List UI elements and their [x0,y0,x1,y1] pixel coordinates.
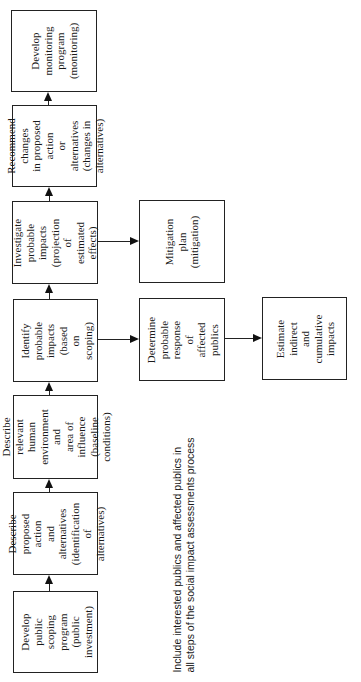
step-label: Develop public scoping program (public i… [18,606,93,658]
note-line-1: Include interested publics and affected … [171,437,184,672]
branch-label: Mitigation plan (mitigation) [163,215,201,268]
step-label: Recommend changes in proposed action or … [5,118,105,174]
branch-label: Determine probable response of affected … [145,316,220,362]
process-note: Include interested publics and affected … [171,437,197,672]
connector-line [225,338,253,339]
arrow-right-icon [253,334,262,342]
step-label: Describe proposed action and alternative… [6,502,106,564]
step-investigate-probable-impacts: Investigate probable impacts (projection… [12,201,98,284]
step-describe-proposed-action: Describe proposed action and alternative… [13,492,98,575]
arrow-up-icon [45,284,53,293]
arrow-up-icon [45,575,53,584]
step-develop-monitoring-program: Develop monitoring program (monitoring) [11,10,97,92]
connector-line [98,339,130,340]
estimate-impacts-box: Estimate indirect and cumulative impacts [262,297,347,380]
step-develop-public-scoping-program: Develop public scoping program (public i… [13,591,98,673]
step-label: Identify probable impacts (based on scop… [18,320,93,362]
branch-label: Estimate indirect and cumulative impacts [273,314,336,363]
step-label: Develop monitoring program (monitoring) [29,23,79,79]
connector-line [98,241,130,242]
note-line-2: all steps of the social impact assessmen… [184,437,197,672]
arrow-right-icon [130,237,139,245]
step-describe-human-environment: Describe relevant human environment and … [13,395,98,479]
arrow-up-icon [45,382,53,391]
step-identify-probable-impacts: Identify probable impacts (based on scop… [13,299,98,382]
step-recommend-changes: Recommend changes in proposed action or … [12,105,97,187]
step-label: Investigate probable impacts (projection… [11,218,99,266]
mitigation-plan-box: Mitigation plan (mitigation) [139,200,225,283]
arrow-up-icon [45,479,53,488]
arrow-right-icon [130,335,139,343]
arrow-up-icon [45,187,53,196]
arrow-up-icon [44,92,52,101]
step-label: Describe relevant human environment and … [0,409,112,465]
determine-response-box: Determine probable response of affected … [139,298,225,381]
